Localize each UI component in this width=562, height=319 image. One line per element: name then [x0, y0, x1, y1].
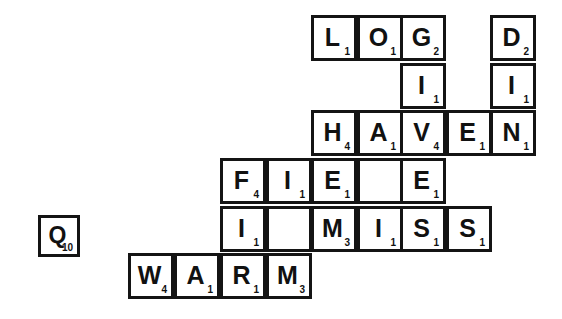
tile-point-value: 4 [253, 190, 259, 200]
letter-tile[interactable]: I1 [220, 206, 266, 252]
tile-point-value: 2 [433, 47, 439, 57]
letter-tile[interactable]: H4 [311, 110, 357, 156]
letter-tile[interactable]: O1 [357, 15, 403, 61]
letter-tile[interactable]: F4 [220, 158, 266, 204]
tile-point-value: 4 [344, 142, 350, 152]
letter-tile[interactable]: I1 [357, 206, 403, 252]
tile-point-value: 3 [299, 285, 305, 295]
tile-point-value: 1 [479, 142, 485, 152]
tile-point-value: 1 [253, 285, 259, 295]
letter-tile[interactable]: E1 [400, 158, 446, 204]
tile-point-value: 10 [62, 243, 73, 253]
letter-tile[interactable]: D2 [490, 15, 536, 61]
letter-tile[interactable]: E1 [311, 158, 357, 204]
scrabble-board: L1O1G2D2I1I1H4A1V4E1N1F4I1E1E1I1M3I1S1S1… [0, 0, 562, 319]
letter-tile[interactable]: S1 [400, 206, 446, 252]
tile-point-value: 1 [433, 95, 439, 105]
letter-tile[interactable]: I1 [490, 63, 536, 109]
tile-point-value: 1 [207, 285, 213, 295]
tile-point-value: 1 [299, 190, 305, 200]
letter-tile[interactable]: V4 [400, 110, 446, 156]
tile-point-value: 2 [523, 47, 529, 57]
letter-tile[interactable]: A1 [357, 110, 403, 156]
tile-point-value: 1 [390, 238, 396, 248]
letter-tile[interactable]: S1 [446, 206, 492, 252]
tile-point-value: 1 [433, 238, 439, 248]
tile-point-value: 1 [390, 142, 396, 152]
letter-tile[interactable]: A1 [174, 253, 220, 299]
tile-point-value: 1 [344, 190, 350, 200]
letter-tile[interactable]: W4 [128, 253, 174, 299]
letter-tile[interactable]: N1 [490, 110, 536, 156]
tile-point-value: 1 [479, 238, 485, 248]
letter-tile[interactable]: M3 [311, 206, 357, 252]
tile-point-value: 4 [161, 285, 167, 295]
letter-tile[interactable]: G2 [400, 15, 446, 61]
tile-point-value: 4 [433, 142, 439, 152]
empty-tile[interactable] [266, 206, 312, 252]
letter-tile[interactable]: E1 [446, 110, 492, 156]
tile-point-value: 1 [253, 238, 259, 248]
empty-tile[interactable] [357, 158, 403, 204]
letter-tile[interactable]: I1 [266, 158, 312, 204]
letter-tile[interactable]: I1 [400, 63, 446, 109]
tile-point-value: 3 [344, 238, 350, 248]
tile-point-value: 1 [433, 190, 439, 200]
loose-letter-tile[interactable]: Q10 [38, 215, 80, 257]
tile-point-value: 1 [344, 47, 350, 57]
letter-tile[interactable]: L1 [311, 15, 357, 61]
tile-point-value: 1 [523, 95, 529, 105]
letter-tile[interactable]: R1 [220, 253, 266, 299]
letter-tile[interactable]: M3 [266, 253, 312, 299]
tile-point-value: 1 [523, 142, 529, 152]
tile-point-value: 1 [390, 47, 396, 57]
